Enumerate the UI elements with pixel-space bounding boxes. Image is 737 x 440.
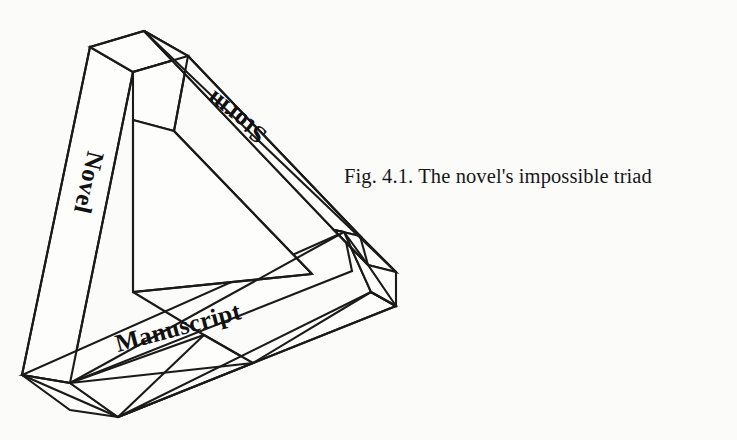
beam-label-storm: Storm bbox=[200, 86, 271, 150]
beam-label-storm-group: Storm bbox=[200, 86, 271, 150]
figure-caption: Fig. 4.1.The novel's impossible triad bbox=[344, 165, 724, 188]
figure-caption-text: The novel's impossible triad bbox=[418, 165, 652, 187]
impossible-triangle-graphic: Novel Storm Manuscript bbox=[0, 0, 737, 440]
figure-page: Novel Storm Manuscript Fig. 4.1.The nove… bbox=[0, 0, 737, 440]
figure-caption-number: Fig. 4.1. bbox=[344, 165, 413, 187]
inner-triangular-hole bbox=[133, 120, 312, 292]
